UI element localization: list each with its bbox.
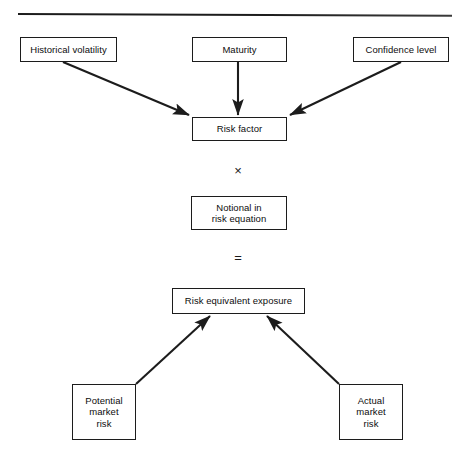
node-potential-market-risk[interactable]: Potential market risk <box>72 384 136 440</box>
node-risk-equivalent-exposure[interactable]: Risk equivalent exposure <box>172 288 305 314</box>
equals-operator: = <box>228 251 248 264</box>
node-notional-in-risk-equation[interactable]: Notional in risk equation <box>191 196 287 230</box>
node-historical-volatility[interactable]: Historical volatility <box>20 37 117 62</box>
arrow-potential-market-risk-to-risk-equivalent-exposure <box>136 316 210 384</box>
node-risk-factor[interactable]: Risk factor <box>192 117 287 141</box>
arrow-confidence-level-to-risk-factor <box>290 62 401 115</box>
node-maturity[interactable]: Maturity <box>192 37 287 62</box>
top-horizontal-rule <box>18 13 452 17</box>
arrow-historical-volatility-to-risk-factor <box>63 62 189 115</box>
node-confidence-level[interactable]: Confidence level <box>353 37 449 62</box>
node-actual-market-risk[interactable]: Actual market risk <box>339 384 403 440</box>
diagram-canvas: Historical volatility Maturity Confidenc… <box>0 0 472 461</box>
multiplication-operator: × <box>228 164 248 177</box>
arrow-actual-market-risk-to-risk-equivalent-exposure <box>267 316 339 384</box>
